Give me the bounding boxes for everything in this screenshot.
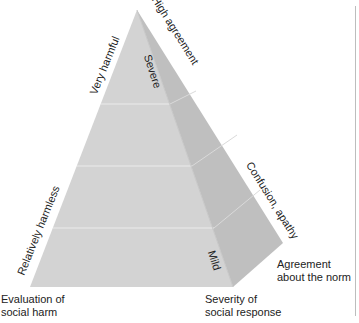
axis-label-evaluation: Evaluation of social harm bbox=[1, 293, 65, 319]
axis-label-severity-line2: social response bbox=[205, 306, 281, 319]
axis-label-evaluation-line1: Evaluation of bbox=[1, 293, 65, 306]
axis-label-agreement-line1: Agreement bbox=[277, 258, 351, 271]
axis-label-agreement: Agreement about the norm bbox=[277, 258, 351, 284]
axis-label-severity: Severity of social response bbox=[205, 293, 281, 319]
axis-label-severity-line1: Severity of bbox=[205, 293, 281, 306]
frame-line bbox=[355, 6, 356, 316]
axis-label-evaluation-line2: social harm bbox=[1, 306, 65, 319]
axis-label-agreement-line2: about the norm bbox=[277, 271, 351, 284]
